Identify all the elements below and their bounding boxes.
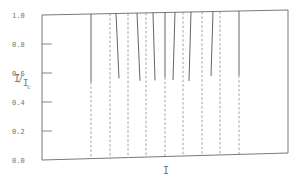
solid-branches	[91, 11, 239, 82]
solid-branch	[211, 12, 213, 77]
y-label-subscript: c	[27, 83, 31, 90]
solid-branch	[116, 13, 119, 78]
solid-branch	[173, 12, 175, 80]
y-axis-ticks: 0.00.20.40.60.81.0	[12, 12, 52, 165]
y-tick-label: 0.2	[12, 128, 25, 136]
x-axis-label: I	[163, 165, 169, 176]
solid-branch	[189, 12, 191, 81]
y-tick-label: 1.0	[12, 12, 25, 20]
solid-branch	[137, 13, 140, 81]
y-tick-label: 0.4	[12, 99, 25, 107]
y-tick-label: 0.8	[12, 41, 25, 49]
solid-branch	[153, 13, 155, 81]
y-tick-label: 0.0	[12, 157, 25, 165]
y-axis-label: I / I c	[14, 73, 31, 90]
chart: 0.00.20.40.60.81.0 I / I c I	[0, 0, 302, 182]
